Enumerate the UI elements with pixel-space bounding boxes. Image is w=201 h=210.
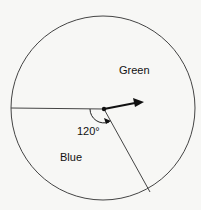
angle-label: 120° — [77, 125, 100, 137]
circle-diagram: Green Blue 120° — [0, 0, 201, 210]
vector-arrow-shaft — [104, 103, 135, 109]
center-point — [102, 107, 106, 111]
region-label-blue: Blue — [60, 151, 82, 163]
lower-radius-line — [104, 109, 150, 192]
region-label-green: Green — [119, 64, 150, 76]
vector-arrowhead-icon — [133, 98, 144, 107]
left-radius-line — [11, 108, 104, 109]
